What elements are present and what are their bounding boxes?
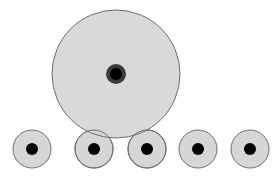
small-circle-dot-2	[88, 143, 100, 155]
small-circle-dot-3	[141, 143, 153, 155]
small-circle-dot-5	[244, 143, 256, 155]
small-circles-group	[13, 130, 269, 168]
large-circle-dot	[110, 68, 122, 80]
small-circle-dot-4	[192, 143, 204, 155]
small-circle-dot-1	[26, 143, 38, 155]
circles-diagram	[0, 0, 279, 181]
